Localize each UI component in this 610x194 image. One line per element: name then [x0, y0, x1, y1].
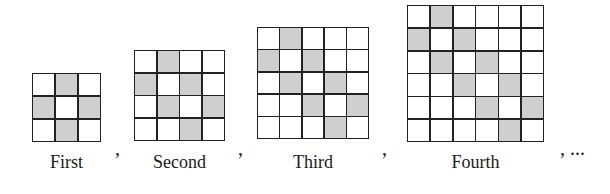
grid-second [134, 50, 225, 141]
grid-first [32, 73, 101, 142]
empty-cell [280, 117, 301, 138]
empty-cell [476, 120, 497, 141]
empty-cell [408, 97, 429, 118]
shaded-cell [56, 120, 77, 141]
empty-cell [79, 120, 100, 141]
shaded-cell [56, 74, 77, 95]
empty-cell [258, 95, 279, 116]
shaded-cell [258, 50, 279, 71]
comma-separator: , [382, 138, 387, 158]
shaded-cell [454, 29, 475, 50]
empty-cell [499, 6, 520, 27]
shaded-cell [303, 95, 324, 116]
empty-cell [476, 74, 497, 95]
figure-label: Third [257, 152, 369, 173]
empty-cell [280, 50, 301, 71]
empty-cell [258, 28, 279, 49]
empty-cell [258, 73, 279, 94]
ellipsis-separator: , ... [560, 138, 585, 158]
empty-cell [499, 97, 520, 118]
empty-cell [408, 120, 429, 141]
figure-label: Second [134, 152, 225, 173]
shaded-cell [158, 96, 179, 117]
empty-cell [522, 6, 543, 27]
empty-cell [431, 97, 452, 118]
shaded-cell [476, 97, 497, 118]
empty-cell [325, 50, 346, 71]
grid-fourth [407, 5, 544, 142]
empty-cell [522, 74, 543, 95]
empty-cell [203, 119, 224, 140]
empty-cell [135, 51, 156, 72]
empty-cell [56, 97, 77, 118]
figure-label: First [32, 152, 101, 173]
empty-cell [180, 96, 201, 117]
empty-cell [431, 74, 452, 95]
empty-cell [347, 50, 368, 71]
empty-cell [347, 73, 368, 94]
empty-cell [280, 95, 301, 116]
figure-label: Fourth [407, 152, 544, 173]
shaded-cell [499, 120, 520, 141]
empty-cell [303, 28, 324, 49]
empty-cell [454, 6, 475, 27]
shaded-cell [347, 95, 368, 116]
shaded-cell [79, 97, 100, 118]
shaded-cell [408, 29, 429, 50]
shaded-cell [33, 97, 54, 118]
shaded-cell [135, 74, 156, 95]
empty-cell [347, 28, 368, 49]
shaded-cell [203, 96, 224, 117]
empty-cell [454, 120, 475, 141]
empty-cell [408, 6, 429, 27]
empty-cell [454, 97, 475, 118]
grid-third [257, 27, 369, 139]
empty-cell [499, 29, 520, 50]
comma-separator: , [115, 138, 120, 158]
empty-cell [499, 52, 520, 73]
comma-separator: , [238, 138, 243, 158]
empty-cell [180, 51, 201, 72]
empty-cell [135, 119, 156, 140]
empty-cell [454, 52, 475, 73]
shaded-cell [325, 73, 346, 94]
empty-cell [522, 120, 543, 141]
empty-cell [158, 74, 179, 95]
empty-cell [203, 51, 224, 72]
shaded-cell [499, 74, 520, 95]
empty-cell [33, 74, 54, 95]
empty-cell [203, 74, 224, 95]
empty-cell [325, 95, 346, 116]
empty-cell [158, 119, 179, 140]
empty-cell [303, 73, 324, 94]
shaded-cell [325, 117, 346, 138]
shaded-cell [431, 52, 452, 73]
empty-cell [347, 117, 368, 138]
shaded-cell [522, 97, 543, 118]
shaded-cell [476, 52, 497, 73]
shaded-cell [158, 51, 179, 72]
empty-cell [522, 29, 543, 50]
empty-cell [408, 74, 429, 95]
shaded-cell [280, 73, 301, 94]
empty-cell [79, 74, 100, 95]
empty-cell [431, 29, 452, 50]
empty-cell [33, 120, 54, 141]
empty-cell [522, 52, 543, 73]
empty-cell [325, 28, 346, 49]
shaded-cell [180, 74, 201, 95]
shaded-cell [280, 28, 301, 49]
shaded-cell [180, 119, 201, 140]
empty-cell [476, 29, 497, 50]
shaded-cell [303, 50, 324, 71]
empty-cell [476, 6, 497, 27]
empty-cell [258, 117, 279, 138]
empty-cell [303, 117, 324, 138]
empty-cell [408, 52, 429, 73]
empty-cell [135, 96, 156, 117]
shaded-cell [431, 6, 452, 27]
empty-cell [431, 120, 452, 141]
shaded-cell [454, 74, 475, 95]
